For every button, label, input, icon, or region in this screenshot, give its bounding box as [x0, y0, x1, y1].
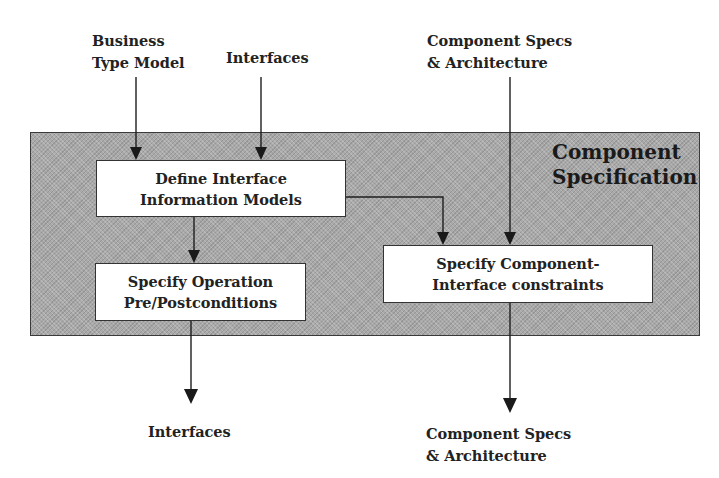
output-interfaces: Interfaces: [148, 421, 231, 443]
output-component-specs: Component Specs & Architecture: [426, 423, 571, 467]
output-component-specs-line2: & Architecture: [426, 445, 571, 467]
container-title-line2: Specification: [552, 165, 702, 190]
output-component-specs-line1: Component Specs: [426, 423, 571, 445]
box-operation-line2: Pre/Postconditions: [124, 292, 277, 313]
box-component-line1: Specify Component-: [432, 253, 603, 274]
input-component-specs-line1: Component Specs: [427, 30, 572, 52]
input-component-specs: Component Specs & Architecture: [427, 30, 572, 74]
box-define-line1: Define Interface: [140, 168, 302, 189]
arrowhead-icon: [503, 398, 517, 413]
box-specify-component-interface-constraints: Specify Component- Interface constraints: [383, 245, 653, 303]
container-title-line1: Component: [552, 140, 702, 165]
box-component-line2: Interface constraints: [432, 274, 603, 295]
input-interfaces: Interfaces: [226, 47, 309, 69]
input-business-type-model: Business Type Model: [92, 30, 185, 74]
box-define-line2: Information Models: [140, 189, 302, 210]
input-business-line2: Type Model: [92, 52, 185, 74]
box-specify-operation-pre-postconditions: Specify Operation Pre/Postconditions: [95, 263, 306, 321]
box-operation-line1: Specify Operation: [124, 271, 277, 292]
container-title: Component Specification: [552, 140, 702, 190]
output-interfaces-line1: Interfaces: [148, 423, 231, 440]
arrowhead-icon: [184, 389, 198, 404]
box-define-interface-information-models: Define Interface Information Models: [96, 160, 346, 217]
input-component-specs-line2: & Architecture: [427, 52, 572, 74]
input-business-line1: Business: [92, 30, 185, 52]
input-interfaces-line1: Interfaces: [226, 49, 309, 66]
